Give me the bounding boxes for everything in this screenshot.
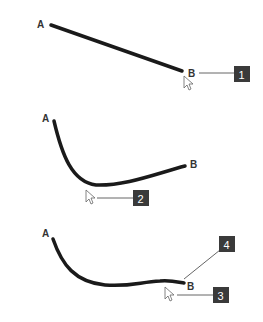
cursor-arrow-icon (86, 190, 95, 204)
callout-number: 4 (224, 239, 230, 251)
cursor-arrow-icon (165, 287, 174, 301)
callout-number: 2 (138, 193, 144, 205)
panel-2: A B 2 (42, 113, 197, 206)
callout-number: 3 (218, 290, 224, 302)
callout-number: 1 (239, 69, 245, 81)
panel-1: A B 1 (37, 19, 250, 90)
diagram-canvas: A B 1 A B 2 A B 4 3 (0, 0, 263, 322)
point-a-label: A (42, 228, 49, 239)
panel-3: A B 4 3 (42, 228, 235, 303)
point-b-label: B (188, 68, 195, 79)
curved-line (53, 239, 184, 285)
point-b-label: B (187, 281, 194, 292)
straight-line (51, 25, 182, 71)
point-a-label: A (42, 113, 49, 124)
curved-line (54, 121, 185, 185)
point-b-label: B (190, 159, 197, 170)
point-a-label: A (37, 19, 44, 30)
leader-line-4 (184, 250, 220, 279)
